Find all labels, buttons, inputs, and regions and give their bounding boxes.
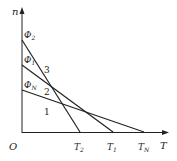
x-axis-arrow-icon bbox=[162, 130, 169, 135]
y-axis-label: n bbox=[12, 6, 18, 17]
phiN-label: ΦN bbox=[24, 80, 37, 91]
y-axis-arrow-icon bbox=[20, 7, 25, 14]
t1-label: T1 bbox=[107, 142, 117, 153]
region-1-label: 1 bbox=[44, 107, 50, 117]
region-2-label: 2 bbox=[44, 87, 50, 97]
line-1 bbox=[22, 90, 144, 132]
torque-speed-diagram: n T O Φ2 Φ1 ΦN T2 T1 TN 3 2 1 bbox=[0, 0, 177, 161]
line-2 bbox=[22, 65, 113, 132]
tN-label: TN bbox=[138, 142, 150, 153]
phi2-label: Φ2 bbox=[24, 30, 35, 41]
region-3-label: 3 bbox=[44, 65, 50, 75]
t2-label: T2 bbox=[74, 142, 84, 153]
origin-label: O bbox=[9, 141, 17, 152]
x-axis-label: T bbox=[160, 140, 168, 151]
phi1-label: Φ1 bbox=[24, 55, 35, 66]
